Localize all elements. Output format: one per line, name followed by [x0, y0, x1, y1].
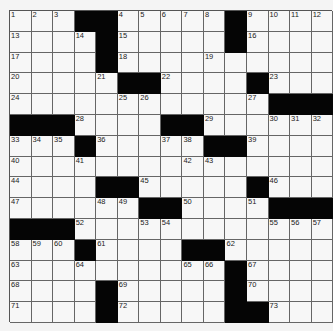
crossword-cell[interactable]	[269, 53, 291, 74]
crossword-cell[interactable]	[118, 261, 140, 282]
crossword-cell[interactable]	[204, 94, 226, 115]
crossword-cell[interactable]: 8	[204, 11, 226, 32]
crossword-cell[interactable]: 35	[53, 136, 75, 157]
crossword-cell[interactable]	[53, 302, 75, 323]
crossword-cell[interactable]	[32, 302, 54, 323]
crossword-cell[interactable]	[290, 281, 312, 302]
crossword-cell[interactable]: 44	[10, 177, 32, 198]
crossword-cell[interactable]: 24	[10, 94, 32, 115]
crossword-cell[interactable]	[182, 281, 204, 302]
crossword-cell[interactable]: 3	[53, 11, 75, 32]
crossword-cell[interactable]	[269, 281, 291, 302]
crossword-cell[interactable]	[118, 219, 140, 240]
crossword-cell[interactable]: 72	[118, 302, 140, 323]
crossword-cell[interactable]	[247, 157, 269, 178]
crossword-cell[interactable]: 32	[312, 115, 333, 136]
crossword-cell[interactable]	[312, 157, 333, 178]
crossword-cell[interactable]: 25	[118, 94, 140, 115]
crossword-cell[interactable]: 1	[10, 11, 32, 32]
crossword-cell[interactable]: 27	[247, 94, 269, 115]
crossword-cell[interactable]	[32, 73, 54, 94]
crossword-cell[interactable]: 62	[225, 240, 247, 261]
crossword-cell[interactable]	[225, 53, 247, 74]
crossword-cell[interactable]	[32, 157, 54, 178]
crossword-cell[interactable]: 21	[96, 73, 118, 94]
crossword-cell[interactable]	[225, 219, 247, 240]
crossword-cell[interactable]: 42	[182, 157, 204, 178]
crossword-cell[interactable]	[312, 73, 333, 94]
crossword-cell[interactable]	[269, 136, 291, 157]
crossword-cell[interactable]: 48	[96, 198, 118, 219]
crossword-cell[interactable]	[32, 198, 54, 219]
crossword-cell[interactable]	[53, 94, 75, 115]
crossword-cell[interactable]	[225, 115, 247, 136]
crossword-cell[interactable]	[32, 53, 54, 74]
crossword-cell[interactable]	[139, 136, 161, 157]
crossword-cell[interactable]	[290, 302, 312, 323]
crossword-cell[interactable]	[96, 115, 118, 136]
crossword-cell[interactable]	[161, 32, 183, 53]
crossword-cell[interactable]: 18	[118, 53, 140, 74]
crossword-cell[interactable]: 69	[118, 281, 140, 302]
crossword-cell[interactable]: 37	[161, 136, 183, 157]
crossword-cell[interactable]: 50	[182, 198, 204, 219]
crossword-cell[interactable]	[204, 281, 226, 302]
crossword-cell[interactable]	[139, 281, 161, 302]
crossword-cell[interactable]	[139, 240, 161, 261]
crossword-cell[interactable]	[53, 281, 75, 302]
crossword-cell[interactable]	[139, 261, 161, 282]
crossword-cell[interactable]	[182, 302, 204, 323]
crossword-cell[interactable]: 52	[75, 219, 97, 240]
crossword-cell[interactable]	[312, 302, 333, 323]
crossword-cell[interactable]: 55	[269, 219, 291, 240]
crossword-cell[interactable]	[204, 302, 226, 323]
crossword-cell[interactable]	[290, 157, 312, 178]
crossword-cell[interactable]	[182, 219, 204, 240]
crossword-cell[interactable]: 13	[10, 32, 32, 53]
crossword-cell[interactable]	[161, 281, 183, 302]
crossword-cell[interactable]: 70	[247, 281, 269, 302]
crossword-cell[interactable]: 10	[269, 11, 291, 32]
crossword-cell[interactable]	[182, 177, 204, 198]
crossword-cell[interactable]	[225, 94, 247, 115]
crossword-cell[interactable]	[53, 157, 75, 178]
crossword-cell[interactable]	[118, 115, 140, 136]
crossword-cell[interactable]: 65	[182, 261, 204, 282]
crossword-cell[interactable]: 43	[204, 157, 226, 178]
crossword-cell[interactable]	[312, 136, 333, 157]
crossword-cell[interactable]: 19	[204, 53, 226, 74]
crossword-cell[interactable]	[75, 302, 97, 323]
crossword-cell[interactable]	[75, 281, 97, 302]
crossword-cell[interactable]	[312, 32, 333, 53]
crossword-cell[interactable]: 2	[32, 11, 54, 32]
crossword-cell[interactable]: 56	[290, 219, 312, 240]
crossword-cell[interactable]: 26	[139, 94, 161, 115]
crossword-cell[interactable]: 4	[118, 11, 140, 32]
crossword-cell[interactable]	[139, 53, 161, 74]
crossword-cell[interactable]	[312, 281, 333, 302]
crossword-cell[interactable]	[75, 53, 97, 74]
crossword-cell[interactable]	[32, 32, 54, 53]
crossword-cell[interactable]	[161, 94, 183, 115]
crossword-cell[interactable]	[182, 32, 204, 53]
crossword-cell[interactable]: 6	[161, 11, 183, 32]
crossword-cell[interactable]: 45	[139, 177, 161, 198]
crossword-cell[interactable]	[53, 198, 75, 219]
crossword-cell[interactable]	[32, 281, 54, 302]
crossword-cell[interactable]: 22	[161, 73, 183, 94]
crossword-cell[interactable]	[75, 198, 97, 219]
crossword-cell[interactable]: 64	[75, 261, 97, 282]
crossword-cell[interactable]: 20	[10, 73, 32, 94]
crossword-cell[interactable]: 51	[247, 198, 269, 219]
crossword-cell[interactable]	[139, 302, 161, 323]
crossword-cell[interactable]	[290, 73, 312, 94]
crossword-cell[interactable]: 66	[204, 261, 226, 282]
crossword-cell[interactable]	[96, 94, 118, 115]
crossword-cell[interactable]: 36	[96, 136, 118, 157]
crossword-cell[interactable]: 23	[269, 73, 291, 94]
crossword-cell[interactable]: 53	[139, 219, 161, 240]
crossword-cell[interactable]	[53, 261, 75, 282]
crossword-cell[interactable]	[53, 73, 75, 94]
crossword-cell[interactable]	[53, 53, 75, 74]
crossword-cell[interactable]: 46	[269, 177, 291, 198]
